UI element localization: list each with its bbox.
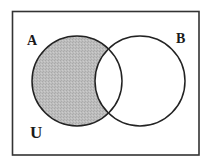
set-a-label: A: [27, 33, 38, 48]
universe-label: U: [30, 123, 42, 142]
venn-diagram: A B U: [0, 0, 209, 164]
set-b-label: B: [176, 31, 185, 46]
